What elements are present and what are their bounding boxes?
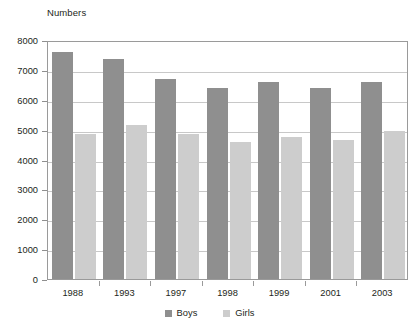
x-axis-tick-label: 2003 (372, 288, 393, 298)
legend-item-girls[interactable]: Girls (223, 308, 254, 318)
legend-label: Girls (235, 308, 254, 318)
gridline (48, 72, 407, 73)
y-axis-tick-label: 2000 (0, 215, 38, 225)
x-axis-tick-label: 1998 (217, 288, 238, 298)
y-axis-tick-mark (42, 41, 47, 42)
x-axis-tick-mark (253, 281, 254, 286)
y-axis-tick-mark (42, 250, 47, 251)
y-axis-tick-mark (42, 161, 47, 162)
y-axis-tick-label: 1000 (0, 245, 38, 255)
bar-boys-2001 (310, 88, 331, 279)
y-axis-labels: 010002000300040005000600070008000 (0, 41, 42, 280)
bar-girls-1988 (75, 134, 96, 279)
y-axis-title: Numbers (47, 7, 86, 18)
bar-girls-1998 (230, 142, 251, 279)
y-axis-tick-mark (42, 101, 47, 102)
x-axis-tick-mark (356, 281, 357, 286)
x-axis-tick-label: 2001 (320, 288, 341, 298)
y-axis-tick-mark (42, 71, 47, 72)
x-axis-tick-mark (202, 281, 203, 286)
bar-boys-1988 (52, 52, 73, 279)
bar-boys-1999 (258, 82, 279, 279)
bar-girls-1997 (178, 134, 199, 279)
y-axis-tick-label: 7000 (0, 66, 38, 76)
gridline (48, 102, 407, 103)
legend-swatch-boys-icon (165, 310, 172, 317)
gridline (48, 132, 407, 133)
bar-girls-2001 (333, 140, 354, 279)
y-axis-tick-mark (42, 131, 47, 132)
legend-item-boys[interactable]: Boys (165, 308, 198, 318)
y-axis-tick-label: 4000 (0, 156, 38, 166)
x-axis-tick-mark (99, 281, 100, 286)
legend-label: Boys (177, 308, 198, 318)
bar-chart: Numbers 01000200030004000500060007000800… (0, 0, 419, 333)
y-axis-tick-label: 0 (0, 275, 38, 285)
x-axis-tick-mark (150, 281, 151, 286)
x-axis-tick-label: 1988 (62, 288, 83, 298)
plot-inner (48, 42, 407, 279)
bar-boys-1993 (103, 59, 124, 279)
y-axis-tick-label: 5000 (0, 126, 38, 136)
y-axis-tick-label: 3000 (0, 185, 38, 195)
x-axis-tick-mark (305, 281, 306, 286)
bar-girls-1999 (281, 137, 302, 279)
chart-legend: BoysGirls (0, 308, 419, 318)
x-axis-tick-label: 1997 (166, 288, 187, 298)
bar-girls-2003 (384, 131, 405, 279)
x-axis-tick-label: 1993 (114, 288, 135, 298)
y-axis-tick-mark (42, 190, 47, 191)
bar-boys-1997 (155, 79, 176, 279)
bar-boys-2003 (361, 82, 382, 279)
x-axis-tick-label: 1999 (269, 288, 290, 298)
y-axis-tick-label: 6000 (0, 96, 38, 106)
legend-swatch-girls-icon (223, 310, 230, 317)
plot-area (47, 41, 408, 280)
y-axis-tick-label: 8000 (0, 36, 38, 46)
y-axis-tick-mark (42, 280, 47, 281)
y-axis-tick-mark (42, 220, 47, 221)
bar-boys-1998 (207, 88, 228, 279)
bar-girls-1993 (126, 125, 147, 279)
